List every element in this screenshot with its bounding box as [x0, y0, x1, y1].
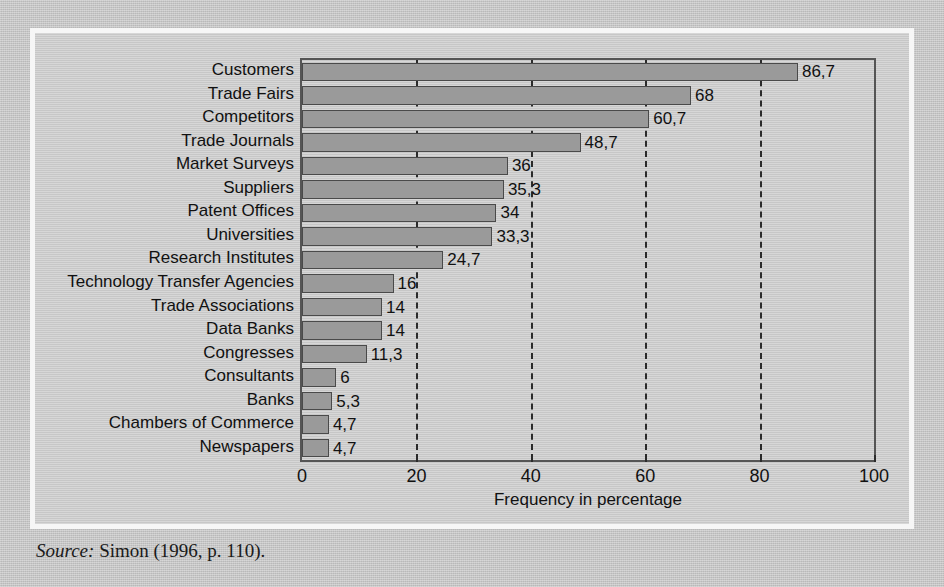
category-label: Suppliers [223, 176, 294, 200]
bar-row[interactable]: 36 [302, 157, 874, 176]
bar-row[interactable]: 4,7 [302, 439, 874, 458]
bar-row[interactable]: 33,3 [302, 227, 874, 246]
category-label: Customers [212, 58, 294, 82]
x-axis-tick-label: 80 [750, 466, 770, 487]
bar[interactable] [302, 63, 798, 82]
bar[interactable] [302, 368, 336, 387]
bar[interactable] [302, 321, 382, 340]
bar[interactable] [302, 274, 394, 293]
x-axis-tick-label: 0 [297, 466, 307, 487]
bar[interactable] [302, 110, 649, 129]
category-label: Chambers of Commerce [109, 411, 294, 435]
bar-row[interactable]: 4,7 [302, 415, 874, 434]
source-note: Source: Simon (1996, p. 110). [36, 540, 265, 562]
category-label: Banks [247, 387, 294, 411]
plot-area: 86,76860,748,73635,33433,324,716141411,3… [300, 58, 876, 462]
bar-value-label: 4,7 [333, 416, 357, 433]
bar-value-label: 60,7 [653, 110, 686, 127]
bar[interactable] [302, 157, 508, 176]
bar-row[interactable]: 24,7 [302, 251, 874, 270]
bar-row[interactable]: 14 [302, 298, 874, 317]
bar[interactable] [302, 204, 496, 223]
x-axis-tick-label: 40 [521, 466, 541, 487]
bar[interactable] [302, 251, 443, 270]
bar-value-label: 86,7 [802, 63, 835, 80]
bar-value-label: 68 [695, 87, 714, 104]
category-label: Congresses [203, 340, 294, 364]
bar-value-label: 6 [340, 369, 349, 386]
bar[interactable] [302, 133, 581, 152]
bar[interactable] [302, 415, 329, 434]
bar-rows: 86,76860,748,73635,33433,324,716141411,3… [302, 60, 874, 460]
bar[interactable] [302, 86, 691, 105]
bar-value-label: 24,7 [447, 251, 480, 268]
bar-value-label: 35,3 [508, 181, 541, 198]
category-label: Research Institutes [148, 246, 294, 270]
bar-value-label: 4,7 [333, 440, 357, 457]
bar-value-label: 14 [386, 299, 405, 316]
category-label: Trade Associations [151, 293, 294, 317]
bar[interactable] [302, 345, 367, 364]
bar-value-label: 34 [500, 204, 519, 221]
source-note-text: Simon (1996, p. 110). [99, 540, 265, 561]
bar-value-label: 11,3 [371, 346, 403, 363]
category-label: Patent Offices [188, 199, 294, 223]
x-axis-tick-label: 60 [635, 466, 655, 487]
category-label: Consultants [204, 364, 294, 388]
category-label: Trade Journals [181, 129, 294, 153]
x-tick-100 [874, 455, 876, 462]
category-label: Data Banks [206, 317, 294, 341]
bar[interactable] [302, 180, 504, 199]
bar-row[interactable]: 16 [302, 274, 874, 293]
bar-row[interactable]: 11,3 [302, 345, 874, 364]
bar-row[interactable]: 86,7 [302, 63, 874, 82]
bar[interactable] [302, 227, 492, 246]
bar-row[interactable]: 5,3 [302, 392, 874, 411]
x-axis-tick-labels: 020406080100 [300, 466, 876, 490]
bar[interactable] [302, 439, 329, 458]
x-axis-tick-label: 100 [859, 466, 889, 487]
category-label: Newspapers [200, 434, 295, 458]
bar-row[interactable]: 6 [302, 368, 874, 387]
bar-value-label: 16 [398, 275, 417, 292]
bar-row[interactable]: 34 [302, 204, 874, 223]
bar-row[interactable]: 35,3 [302, 180, 874, 199]
category-label: Technology Transfer Agencies [67, 270, 294, 294]
bar[interactable] [302, 298, 382, 317]
category-label: Trade Fairs [208, 82, 294, 106]
bar-value-label: 33,3 [496, 228, 529, 245]
category-label-column: CustomersTrade FairsCompetitorsTrade Jou… [0, 58, 294, 462]
category-label: Universities [206, 223, 294, 247]
x-axis-tick-label: 20 [406, 466, 426, 487]
bar-value-label: 48,7 [585, 134, 618, 151]
source-note-label: Source: [36, 540, 94, 561]
category-label: Competitors [202, 105, 294, 129]
category-label: Market Surveys [176, 152, 294, 176]
bar-row[interactable]: 14 [302, 321, 874, 340]
bar[interactable] [302, 392, 332, 411]
bar-value-label: 36 [512, 157, 531, 174]
bar-value-label: 5,3 [336, 393, 360, 410]
page-background: CustomersTrade FairsCompetitorsTrade Jou… [0, 0, 944, 587]
bar-row[interactable]: 60,7 [302, 110, 874, 129]
x-axis-title: Frequency in percentage [300, 490, 876, 510]
bar-row[interactable]: 68 [302, 86, 874, 105]
bar-value-label: 14 [386, 322, 405, 339]
bar-row[interactable]: 48,7 [302, 133, 874, 152]
